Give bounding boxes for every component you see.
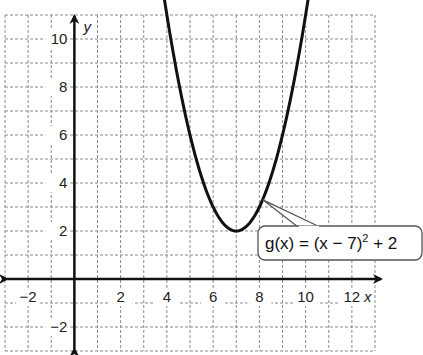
- x-tick-label: 12: [344, 288, 361, 305]
- x-tick-label: −2: [20, 288, 37, 305]
- y-tick-label: 8: [59, 78, 67, 95]
- y-tick-label: 10: [51, 30, 68, 47]
- y-tick-label: 2: [59, 222, 67, 239]
- callout-label: g(x) = (x − 7)2 + 2: [265, 232, 397, 253]
- x-tick-label: 8: [255, 288, 263, 305]
- x-tick-label: 4: [163, 288, 171, 305]
- x-tick-label: 2: [116, 288, 124, 305]
- y-tick-label: 4: [59, 174, 67, 191]
- x-tick-label: 6: [209, 288, 217, 305]
- tick-labels: −224681012−2246810xy: [16, 17, 374, 336]
- y-tick-label: −2: [50, 318, 67, 335]
- x-tick-label: 10: [297, 288, 314, 305]
- y-tick-label: 6: [59, 126, 67, 143]
- function-callout: g(x) = (x − 7)2 + 2: [258, 200, 422, 260]
- x-axis-label: x: [363, 288, 372, 305]
- parabola-chart: −224681012−2246810xy g(x) = (x − 7)2 + 2: [0, 0, 423, 355]
